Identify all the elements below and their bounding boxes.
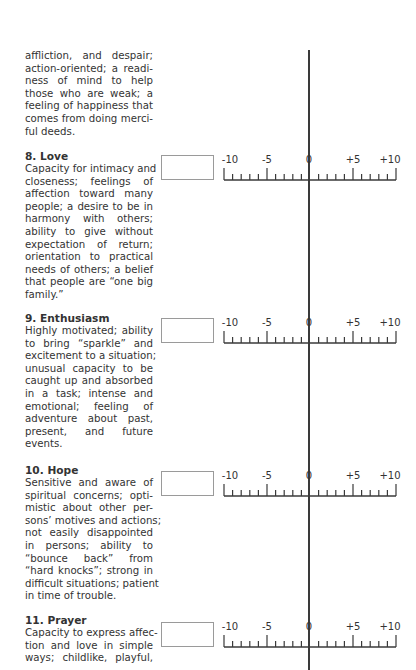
ruler-ticks (222, 470, 398, 500)
text-line: spiritual concerns; opti- (25, 490, 153, 503)
text-line: expectation of return; (25, 239, 153, 252)
text-line: in persons; ability to (25, 540, 153, 553)
score-box-hope[interactable] (161, 471, 214, 496)
text-line: in time of trouble. (25, 590, 153, 603)
section-hope: 10. Hope Sensitive and aware of spiritua… (25, 464, 153, 603)
rating-scale-enthusiasm[interactable]: -10 -5 0 +5 +10 (222, 317, 398, 347)
text-line: emotional; feeling of (25, 401, 153, 414)
score-box-love[interactable] (161, 155, 214, 180)
score-box-enthusiasm[interactable] (161, 318, 214, 343)
text-line: unusual capacity to be (25, 363, 153, 376)
ruler-ticks (222, 621, 398, 651)
text-line: affection toward many (25, 188, 153, 201)
rating-scale-prayer[interactable]: -10 -5 0 +5 +10 (222, 621, 398, 651)
text-line: tion and love in simple (25, 640, 153, 653)
text-line: Highly motivated; ability (25, 325, 153, 338)
text-line: caught up and absorbed (25, 375, 153, 388)
section-prayer: 11. Prayer Capacity to express affec- ti… (25, 614, 153, 665)
text-line: “bounce back” from (25, 553, 153, 566)
text-line: ness of mind to help (25, 75, 153, 88)
score-box-prayer[interactable] (161, 622, 214, 647)
text-line: affliction, and despair; (25, 50, 153, 63)
text-line: ful deeds. (25, 126, 153, 139)
text-line: “hard knocks”; strong in (25, 565, 153, 578)
text-line: closeness; feelings of (25, 176, 153, 189)
text-line: comes from doing merci- (25, 113, 153, 126)
text-line: difficult situations; patient (25, 578, 153, 591)
section-heading: 9. Enthusiasm (25, 312, 153, 325)
text-line: events. (25, 438, 153, 451)
section-heading: 11. Prayer (25, 614, 153, 627)
ruler-ticks (222, 317, 398, 347)
text-line: to bring “sparkle” and (25, 338, 153, 351)
text-line: mistic about other per- (25, 502, 153, 515)
text-line: harmony with others; (25, 213, 153, 226)
ruler-ticks (222, 154, 398, 184)
text-line: present, and future (25, 426, 153, 439)
text-line: sons’ motives and actions; (25, 515, 153, 528)
text-line: family.” (25, 289, 153, 302)
section-enthusiasm: 9. Enthusiasm Highly motivated; ability … (25, 312, 153, 451)
section-love: 8. Love Capacity for intimacy and closen… (25, 150, 153, 302)
intro-text: affliction, and despair; action-oriented… (25, 50, 153, 138)
text-line: in a task; intense and (25, 388, 153, 401)
text-line: adventure about past, (25, 413, 153, 426)
text-line: that people are “one big (25, 276, 153, 289)
text-line: Capacity to express affec- (25, 627, 153, 640)
rating-scale-hope[interactable]: -10 -5 0 +5 +10 (222, 470, 398, 500)
text-line: those who are weak; a (25, 88, 153, 101)
rating-scale-love[interactable]: -10 -5 0 +5 +10 (222, 154, 398, 184)
text-line: ways; childlike, playful, (25, 652, 153, 665)
text-line: not easily disappointed (25, 527, 153, 540)
text-line: people; a desire to be in (25, 201, 153, 214)
center-axis-line (308, 50, 310, 670)
text-line: Capacity for intimacy and (25, 163, 153, 176)
text-line: feeling of happiness that (25, 100, 153, 113)
section-heading: 8. Love (25, 150, 153, 163)
text-line: orientation to practical (25, 251, 153, 264)
text-line: ability to give without (25, 226, 153, 239)
text-line: needs of others; a belief (25, 264, 153, 277)
text-line: Sensitive and aware of (25, 477, 153, 490)
section-heading: 10. Hope (25, 464, 153, 477)
text-line: action-oriented; a readi- (25, 63, 153, 76)
text-line: excitement to a situation; (25, 350, 153, 363)
